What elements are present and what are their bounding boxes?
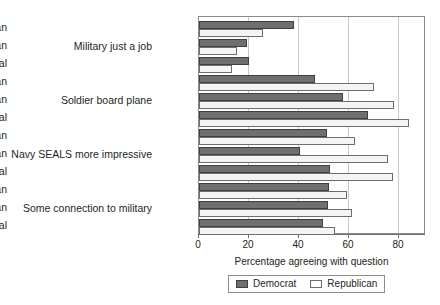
tick-label-80: 80 [383, 239, 413, 250]
bar-democrat-0-1[interactable] [199, 39, 247, 47]
bar-republican-2-0[interactable] [199, 137, 355, 145]
bar-democrat-2-1[interactable] [199, 147, 300, 155]
group-label-some-connection-to-military: Some connection to military [23, 202, 152, 214]
bar-democrat-1-2[interactable] [199, 111, 368, 119]
bar-republican-3-1[interactable] [199, 209, 352, 217]
bar-democrat-2-0[interactable] [199, 129, 327, 137]
tick-mark-80 [398, 234, 399, 238]
tick-mark-0 [198, 234, 199, 238]
x-axis-line [198, 234, 425, 235]
tick-mark-20 [248, 234, 249, 238]
group-label-navy-seals-more-impressive: Navy SEALS more impressive [11, 148, 152, 160]
bar-democrat-1-1[interactable] [199, 93, 343, 101]
bar-republican-3-0[interactable] [199, 191, 347, 199]
legend-item-democrat[interactable]: Democrat [236, 278, 296, 290]
bar-republican-0-2[interactable] [199, 65, 232, 73]
bar-democrat-0-2[interactable] [199, 57, 249, 65]
bar-democrat-3-2[interactable] [199, 219, 323, 227]
row-label-g0-urban: Urban [0, 22, 7, 33]
row-label-g2-rural: Rural [0, 166, 7, 177]
tick-mark-60 [348, 234, 349, 238]
legend-label-republican: Republican [327, 278, 377, 290]
dark-gray-swatch-icon [236, 280, 248, 288]
bar-democrat-1-0[interactable] [199, 75, 315, 83]
bar-democrat-0-0[interactable] [199, 21, 294, 29]
bar-democrat-2-2[interactable] [199, 165, 330, 173]
bar-democrat-3-0[interactable] [199, 183, 329, 191]
row-label-g3-rural: Rural [0, 220, 7, 231]
row-label-g2-suburban: Suburban [0, 148, 7, 159]
row-label-g3-urban: Urban [0, 184, 7, 195]
bar-republican-1-1[interactable] [199, 101, 394, 109]
tick-label-20: 20 [233, 239, 263, 250]
row-label-g1-suburban: Suburban [0, 94, 7, 105]
plot-area [198, 16, 425, 234]
row-label-g3-suburban: Suburban [0, 202, 7, 213]
bar-republican-0-0[interactable] [199, 29, 263, 37]
row-label-g0-suburban: Suburban [0, 40, 7, 51]
tick-label-40: 40 [283, 239, 313, 250]
bar-chart: Military just a job Soldier board plane … [0, 0, 440, 305]
group-label-column: Military just a job Soldier board plane … [0, 0, 152, 305]
bar-republican-1-2[interactable] [199, 119, 409, 127]
bar-republican-0-1[interactable] [199, 47, 237, 55]
row-label-g1-urban: Urban [0, 76, 7, 87]
legend-label-democrat: Democrat [253, 278, 296, 290]
x-axis-title: Percentage agreeing with question [198, 256, 425, 268]
bar-republican-2-1[interactable] [199, 155, 388, 163]
group-label-soldier-board-plane: Soldier board plane [61, 94, 152, 106]
bar-republican-2-2[interactable] [199, 173, 393, 181]
bar-democrat-3-1[interactable] [199, 201, 328, 209]
row-label-g2-urban: Urban [0, 130, 7, 141]
row-label-g1-rural: Rural [0, 112, 7, 123]
white-swatch-icon [310, 280, 322, 288]
bar-republican-1-0[interactable] [199, 83, 374, 91]
tick-label-60: 60 [333, 239, 363, 250]
group-label-military-just-a-job: Military just a job [74, 40, 152, 52]
row-label-g0-rural: Rural [0, 58, 7, 69]
legend: Democrat Republican [228, 275, 385, 293]
tick-label-0: 0 [183, 239, 213, 250]
legend-item-republican[interactable]: Republican [310, 278, 377, 290]
tick-mark-40 [298, 234, 299, 238]
